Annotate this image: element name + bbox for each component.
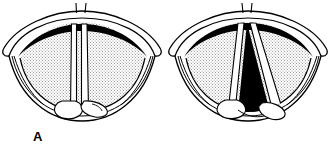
- panel-b: B: [164, 0, 329, 154]
- laryngeal-views-figure: A: [0, 0, 329, 154]
- arytenoid-cartilage-left: [217, 100, 245, 119]
- true-vocal-cord-right: [82, 24, 89, 110]
- panel-label-a: A: [33, 130, 42, 143]
- panel-a-drawing: [0, 0, 165, 132]
- true-vocal-cord-left: [71, 24, 77, 110]
- arytenoid-cartilage-left: [55, 101, 83, 119]
- panel-b-drawing: [164, 0, 329, 132]
- panel-a: A: [0, 0, 165, 154]
